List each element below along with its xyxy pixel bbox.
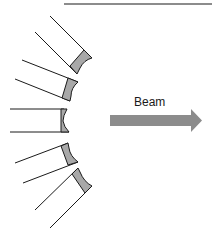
detector-5-cap [72,168,92,193]
detector-3 [10,109,69,132]
detector-4-cap [61,143,78,165]
detector-1 [35,16,92,74]
detector-3-cap [61,109,69,132]
detector-1-cap [70,50,92,74]
beam-label: Beam [134,95,165,109]
detector-5 [35,168,92,228]
detector-beam-diagram: Beam [0,0,221,240]
beam-arrow-shape [110,109,202,132]
detector-2-cap [62,78,78,101]
beam-arrow [110,109,202,132]
